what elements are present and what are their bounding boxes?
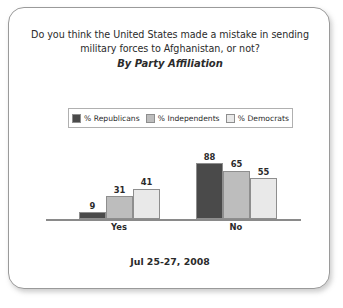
legend-label-democrats: % Democrats <box>238 114 289 123</box>
bar-rect <box>79 212 106 219</box>
bar-no-independents: 65 <box>223 152 250 219</box>
chart-title-line-1: Do you think the United States made a mi… <box>23 28 317 42</box>
chart-title-line-2: military forces to Afghanistan, or not? <box>23 42 317 56</box>
bar-rect <box>196 163 223 219</box>
chart-subtitle: By Party Affiliation <box>23 56 317 71</box>
legend-swatch-icon-independents <box>146 114 155 123</box>
legend-item-republicans: % Republicans <box>72 114 140 123</box>
bar-value-label: 65 <box>231 160 243 169</box>
bar-yes-republicans: 9 <box>79 152 106 219</box>
legend-item-democrats: % Democrats <box>226 114 289 123</box>
legend-label-republicans: % Republicans <box>84 114 140 123</box>
bar-value-label: 9 <box>90 202 96 211</box>
legend-swatch-icon-democrats <box>226 114 235 123</box>
chart-title-block: Do you think the United States made a mi… <box>23 28 317 71</box>
legend-swatch-icon-republicans <box>72 114 81 123</box>
chart-baseline-axis <box>46 219 301 221</box>
chart-plot-area: 9 31 41 88 65 55 <box>9 138 331 233</box>
category-label-yes: Yes <box>78 222 160 232</box>
bar-value-label: 41 <box>141 178 153 187</box>
legend-label-independents: % Independents <box>158 114 220 123</box>
chart-date-footer: Jul 25-27, 2008 <box>23 256 317 267</box>
bar-no-republicans: 88 <box>196 152 223 219</box>
chart-legend: % Republicans % Independents % Democrats <box>68 108 293 128</box>
legend-item-independents: % Independents <box>146 114 220 123</box>
bar-value-label: 31 <box>114 186 126 195</box>
bar-rect <box>223 171 250 219</box>
bar-yes-independents: 31 <box>106 152 133 219</box>
bar-value-label: 88 <box>204 153 216 162</box>
bar-group-no: 88 65 55 <box>196 152 277 219</box>
bar-rect <box>133 189 160 219</box>
category-label-no: No <box>195 222 277 232</box>
bar-yes-democrats: 41 <box>133 152 160 219</box>
chart-card: Do you think the United States made a mi… <box>8 7 330 289</box>
bar-rect <box>106 196 133 219</box>
bar-rect <box>250 178 277 219</box>
bar-no-democrats: 55 <box>250 152 277 219</box>
bar-group-yes: 9 31 41 <box>79 152 160 219</box>
bar-value-label: 55 <box>258 168 270 177</box>
